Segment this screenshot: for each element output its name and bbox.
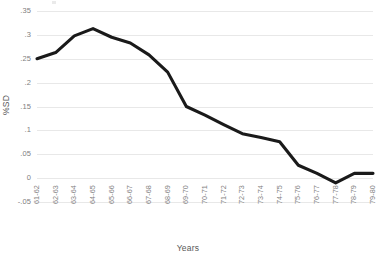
- x-tick-label: 72-73: [239, 185, 246, 204]
- x-tick-label: 74-75: [276, 185, 283, 204]
- y-axis-title: %SD: [1, 95, 11, 115]
- y-tick-label: .05: [20, 151, 31, 159]
- x-tick-label: 69-70: [183, 185, 190, 204]
- x-tick-label: 75-76: [295, 185, 302, 204]
- x-tick-label: 66-67: [127, 185, 134, 204]
- x-tick-label: 77-78: [332, 185, 339, 204]
- x-axis: 61-6262-6363-6464-6565-6666-6767-6868-69…: [37, 204, 373, 242]
- y-tick-label: .3: [25, 31, 31, 39]
- x-tick-label: 70-71: [201, 185, 208, 204]
- x-axis-title: Years: [0, 243, 376, 253]
- x-tick-label: 67-68: [145, 185, 152, 204]
- x-tick-label: 76-77: [313, 185, 320, 204]
- x-tick-label: 71-72: [220, 185, 227, 204]
- x-tick-label: 65-66: [108, 185, 115, 204]
- x-tick-label: 73-74: [257, 185, 264, 204]
- x-tick-label: 78-79: [351, 185, 358, 204]
- x-tick-label: 62-63: [52, 185, 59, 204]
- x-tick-label: 61-62: [33, 185, 40, 204]
- y-tick-label: 0: [27, 174, 31, 182]
- line-series: [37, 11, 373, 202]
- y-tick-label: .1: [25, 127, 31, 135]
- plot-area: [37, 11, 373, 202]
- y-tick-label: .35: [20, 7, 31, 15]
- series-polyline: [37, 29, 373, 183]
- y-tick-label: .15: [20, 103, 31, 111]
- top-edge-artifact: [52, 1, 56, 4]
- y-tick-label: .2: [25, 79, 31, 87]
- x-tick-label: 63-64: [71, 185, 78, 204]
- x-tick-label: 64-65: [89, 185, 96, 204]
- x-tick-label: 68-69: [164, 185, 171, 204]
- y-tick-label: .25: [20, 55, 31, 63]
- chart-container: .35.3.25.2.15.1.050-.05 %SD 61-6262-6363…: [0, 0, 376, 259]
- x-tick-label: 79-80: [369, 185, 376, 204]
- y-tick-label: -.05: [18, 198, 31, 206]
